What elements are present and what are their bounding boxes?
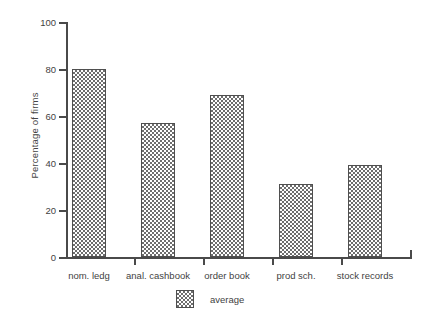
- x-tick-mark: [134, 258, 136, 265]
- x-category-label-nom-ledg: nom. ledg: [68, 270, 110, 281]
- x-category-label-prod-sch: prod sch.: [276, 270, 315, 281]
- bar-order-book: [210, 95, 244, 257]
- plot-area: 0 20 40 60 80 100: [66, 22, 412, 257]
- y-tick-label: 40: [45, 158, 56, 169]
- y-axis-title: Percentage of firms: [29, 56, 40, 216]
- y-tick-mark: [59, 22, 66, 24]
- bar-nom-ledg: [72, 69, 106, 257]
- y-tick-mark: [59, 163, 66, 165]
- y-axis-line: [66, 22, 68, 257]
- x-axis-line: [66, 257, 412, 259]
- x-tick-mark: [272, 258, 274, 265]
- x-axis-end-tick: [410, 250, 412, 258]
- x-category-label-stock-records: stock records: [337, 270, 394, 281]
- bar-prod-sch: [279, 184, 313, 257]
- x-category-label-order-book: order book: [204, 270, 249, 281]
- y-tick-label: 20: [45, 205, 56, 216]
- chart-legend: average: [176, 290, 244, 308]
- y-tick-mark: [59, 257, 66, 259]
- x-tick-mark: [341, 258, 343, 265]
- bar-chart: Percentage of firms 0 20 40 60 80 100: [0, 0, 431, 320]
- legend-label-average: average: [210, 294, 244, 305]
- y-tick-label: 100: [40, 17, 56, 28]
- legend-swatch-average: [176, 290, 194, 308]
- y-tick-mark: [59, 69, 66, 71]
- bar-stock-records: [348, 165, 382, 257]
- x-tick-mark: [203, 258, 205, 265]
- bar-anal-cashbook: [141, 123, 175, 257]
- y-tick-mark: [59, 116, 66, 118]
- x-category-label-anal-cashbook: anal. cashbook: [126, 270, 190, 281]
- y-tick-label: 80: [45, 64, 56, 75]
- y-tick-label: 60: [45, 111, 56, 122]
- y-tick-mark: [59, 210, 66, 212]
- y-tick-label: 0: [51, 252, 56, 263]
